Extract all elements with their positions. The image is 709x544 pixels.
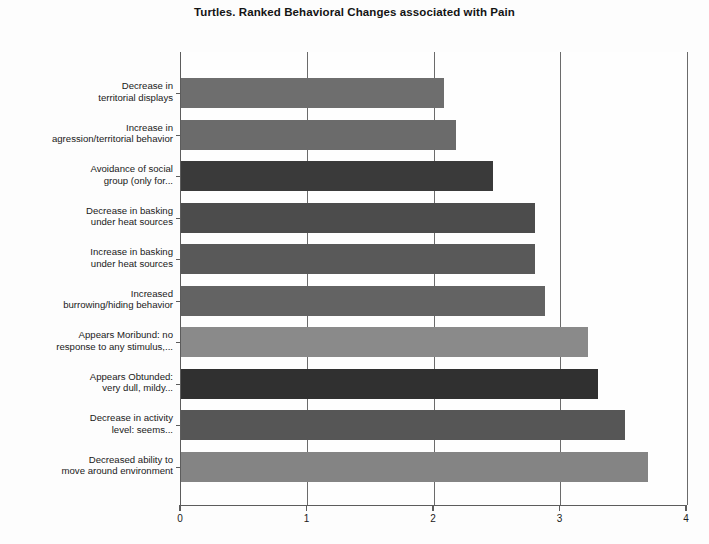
bar-row	[181, 452, 648, 482]
y-axis-tick	[176, 342, 181, 343]
x-axis-tick-label: 4	[671, 513, 701, 524]
bar-row	[181, 410, 625, 440]
y-axis-label-line: move around environment	[1, 465, 173, 477]
bar-row	[181, 369, 598, 399]
chart-title: Turtles. Ranked Behavioral Changes assoc…	[0, 6, 709, 18]
y-axis-label-line: under heat sources	[1, 216, 173, 228]
bar-row	[181, 78, 444, 108]
y-axis-label: Appears Obtunded:very dull, mildy...	[1, 371, 173, 394]
y-axis-tick	[176, 176, 181, 177]
bar	[181, 286, 545, 316]
y-axis-label: Decrease in baskingunder heat sources	[1, 205, 173, 228]
y-axis-label-line: very dull, mildy...	[1, 382, 173, 394]
bar	[181, 327, 588, 357]
x-axis: 01234	[180, 505, 686, 541]
y-axis-label-line: Increase in	[1, 122, 173, 134]
y-axis-tick	[176, 425, 181, 426]
y-axis-label-line: level: seems...	[1, 424, 173, 436]
y-axis-label-line: group (only for...	[1, 175, 173, 187]
y-axis-label-line: Decrease in	[1, 80, 173, 92]
y-axis-label: Avoidance of socialgroup (only for...	[1, 163, 173, 186]
y-axis-label-line: Increase in basking	[1, 246, 173, 258]
y-axis-label-line: territorial displays	[1, 92, 173, 104]
y-axis-label-line: Decreased ability to	[1, 454, 173, 466]
y-axis-label: Decrease interritorial displays	[1, 80, 173, 103]
bar	[181, 120, 456, 150]
x-axis-tick-label: 2	[418, 513, 448, 524]
y-axis-label-line: under heat sources	[1, 258, 173, 270]
bar	[181, 369, 598, 399]
x-axis-tick	[179, 505, 180, 511]
bar	[181, 244, 535, 274]
bar-row	[181, 327, 588, 357]
bar-row	[181, 120, 456, 150]
y-axis-label-line: Decrease in basking	[1, 205, 173, 217]
y-axis-label: Increase inagression/territorial behavio…	[1, 122, 173, 145]
x-axis-tick	[432, 505, 433, 511]
x-axis-tick	[559, 505, 560, 511]
y-axis-tick	[176, 259, 181, 260]
bar-chart: Turtles. Ranked Behavioral Changes assoc…	[0, 0, 709, 544]
x-axis-tick	[306, 505, 307, 511]
y-axis-tick	[176, 384, 181, 385]
y-axis-label: Decrease in activitylevel: seems...	[1, 412, 173, 435]
bar	[181, 410, 625, 440]
y-axis-label: Decreased ability tomove around environm…	[1, 454, 173, 477]
y-axis-label: Appears Moribund: noresponse to any stim…	[1, 329, 173, 352]
y-axis-label-line: agression/territorial behavior	[1, 133, 173, 145]
y-axis-tick	[176, 135, 181, 136]
y-axis-label-line: burrowing/hiding behavior	[1, 299, 173, 311]
y-axis-label-line: Avoidance of social	[1, 163, 173, 175]
bar-row	[181, 244, 535, 274]
y-axis-label: Increasedburrowing/hiding behavior	[1, 288, 173, 311]
bar	[181, 452, 648, 482]
bar	[181, 161, 493, 191]
gridline-4	[687, 52, 688, 505]
bar	[181, 78, 444, 108]
y-axis-tick	[176, 218, 181, 219]
y-axis-label: Increase in baskingunder heat sources	[1, 246, 173, 269]
y-axis-tick	[176, 467, 181, 468]
y-axis-label-line: Increased	[1, 288, 173, 300]
bar	[181, 203, 535, 233]
y-axis-label-line: Appears Obtunded:	[1, 371, 173, 383]
x-axis-tick-label: 1	[292, 513, 322, 524]
y-axis-tick	[176, 93, 181, 94]
x-axis-tick-label: 3	[545, 513, 575, 524]
y-axis-tick	[176, 301, 181, 302]
y-axis-label-line: Decrease in activity	[1, 412, 173, 424]
x-axis-tick	[685, 505, 686, 511]
x-axis-tick-label: 0	[165, 513, 195, 524]
bar-row	[181, 286, 545, 316]
bar-row	[181, 161, 493, 191]
plot-area: Decrease interritorial displaysIncrease …	[180, 52, 687, 506]
y-axis-label-line: response to any stimulus,...	[1, 341, 173, 353]
bar-row	[181, 203, 535, 233]
y-axis-label-line: Appears Moribund: no	[1, 329, 173, 341]
